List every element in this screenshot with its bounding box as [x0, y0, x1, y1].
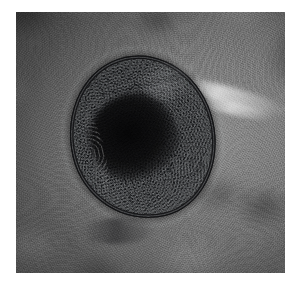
plate-vignette	[16, 12, 285, 273]
page-root	[0, 0, 302, 294]
photomicrograph-plate	[16, 12, 285, 273]
figure-caption	[16, 276, 285, 292]
